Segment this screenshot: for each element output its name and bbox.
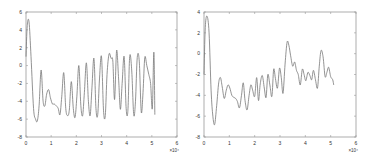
x-tick-label: 1	[50, 140, 53, 146]
y-tick-label: 2	[19, 45, 22, 51]
y-tick-label: 6	[19, 9, 22, 15]
x-exponent-label: ×10⁴	[169, 148, 179, 153]
x-tick-label: 5	[150, 140, 153, 146]
axes-box	[204, 12, 356, 137]
figure: 01234566420-2-4-6-8×10⁴ 0123456420-2-4-6…	[0, 0, 372, 158]
x-tick-label: 2	[75, 140, 78, 146]
right-plot-axes: 0123456420-2-4-6-8×10⁴	[196, 9, 359, 153]
y-tick-label: -8	[196, 134, 201, 140]
x-tick-label: 3	[279, 140, 282, 146]
x-tick-label: 0	[203, 140, 206, 146]
y-tick-label: 4	[19, 27, 22, 33]
left-plot-axes: 01234566420-2-4-6-8×10⁴	[18, 9, 180, 153]
x-tick-label: 4	[125, 140, 128, 146]
y-tick-label: 2	[197, 30, 200, 36]
y-tick-label: 0	[197, 50, 200, 56]
x-tick-label: 1	[228, 140, 231, 146]
y-tick-label: -2	[18, 80, 23, 86]
x-tick-label: 2	[253, 140, 256, 146]
y-tick-label: 0	[19, 62, 22, 68]
y-tick-label: -2	[196, 71, 201, 77]
x-tick-label: 0	[25, 140, 28, 146]
x-tick-label: 5	[329, 140, 332, 146]
x-exponent-label: ×10⁴	[348, 148, 358, 153]
y-tick-label: -4	[18, 98, 23, 104]
y-tick-label: 4	[197, 9, 200, 15]
y-tick-label: -8	[18, 134, 23, 140]
x-tick-label: 3	[100, 140, 103, 146]
x-tick-label: 4	[304, 140, 307, 146]
x-tick-label: 6	[355, 140, 358, 146]
chart-figure: 01234566420-2-4-6-8×10⁴ 0123456420-2-4-6…	[0, 0, 372, 158]
x-tick-label: 6	[176, 140, 179, 146]
y-tick-label: -6	[18, 116, 23, 122]
y-tick-label: -6	[196, 113, 201, 119]
y-tick-label: -4	[196, 92, 201, 98]
